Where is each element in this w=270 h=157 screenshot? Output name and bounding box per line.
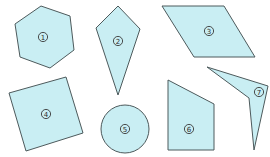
kite bbox=[96, 6, 140, 95]
label-7: 7 bbox=[257, 89, 261, 97]
shape-1-hexagon: 1 bbox=[15, 6, 74, 68]
shape-4-square: 4 bbox=[9, 77, 83, 151]
shape-5-circle: 5 bbox=[101, 105, 149, 153]
label-1: 1 bbox=[41, 34, 45, 42]
shape-2-kite: 2 bbox=[96, 6, 140, 95]
label-2: 2 bbox=[116, 38, 120, 46]
shape-6-trapezoid: 6 bbox=[168, 80, 214, 150]
label-3: 3 bbox=[207, 28, 211, 36]
concave-quadrilateral bbox=[207, 67, 268, 150]
shapes-diagram: 1 2 3 4 5 6 7 bbox=[0, 0, 270, 157]
label-5: 5 bbox=[123, 126, 127, 134]
label-4: 4 bbox=[44, 111, 49, 119]
shape-7-concave-quadrilateral: 7 bbox=[207, 67, 268, 150]
shape-3-parallelogram: 3 bbox=[162, 6, 255, 57]
trapezoid bbox=[168, 80, 214, 150]
label-6: 6 bbox=[187, 126, 192, 134]
